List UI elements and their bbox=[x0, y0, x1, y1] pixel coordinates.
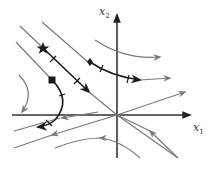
diamond-marker-icon bbox=[87, 58, 93, 66]
trajectory-highlight-diagonal-continuation bbox=[89, 92, 117, 115]
x2-axis-label: x2 bbox=[99, 5, 110, 20]
square-marker-icon bbox=[49, 77, 56, 84]
trajectory-stable-diagonal bbox=[117, 115, 178, 158]
trajectory-unstable-down-left bbox=[52, 115, 117, 135]
trajectory-upper-diagonal-2 bbox=[20, 26, 43, 48]
phase-portrait: x2 x1 bbox=[0, 0, 212, 172]
trajectory-stable-diagonal-lower-seg bbox=[117, 115, 150, 131]
trajectory-highlight-upper bbox=[90, 62, 140, 80]
trajectory-unstable-up-right bbox=[117, 92, 185, 115]
trajectory-unstable-down-left-tail bbox=[14, 135, 52, 148]
trajectory-bottom-curve-right bbox=[100, 138, 140, 158]
trajectory-highlight-lower bbox=[38, 80, 63, 127]
trajectory-highlight-diagonal bbox=[43, 48, 89, 92]
trajectory-highlight-upper-continuation bbox=[140, 78, 170, 80]
trajectory-top-right-curve bbox=[95, 40, 160, 57]
tick-mark bbox=[127, 75, 129, 83]
trajectory-left-arc bbox=[19, 75, 28, 112]
trajectory-bottom-curve bbox=[55, 138, 100, 148]
trajectory-stable-diagonal-lower bbox=[150, 131, 178, 158]
x1-axis-label: x1 bbox=[193, 121, 204, 136]
trajectory-upper-diagonal-1 bbox=[42, 22, 88, 62]
trajectory-lower-left-1 bbox=[14, 118, 60, 131]
